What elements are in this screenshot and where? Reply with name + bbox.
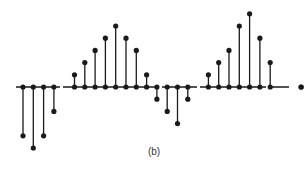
stem-tip-dot: [165, 109, 170, 114]
stem-base-dot: [237, 84, 242, 89]
stem-base-dot: [268, 84, 273, 89]
stem-18: [206, 72, 211, 89]
stem-2: [41, 84, 46, 138]
stem-tip-dot: [237, 23, 242, 28]
stem-tip-dot: [268, 60, 273, 65]
stem-base-dot: [123, 84, 128, 89]
stem-12: [144, 72, 149, 89]
stem-tip-dot: [206, 72, 211, 77]
stem-tip-dot: [144, 72, 149, 77]
stem-tip-dot: [299, 84, 304, 89]
figure-caption: (b): [0, 146, 308, 157]
stem-base-dot: [144, 84, 149, 89]
stem-20: [226, 48, 231, 90]
stem-7: [93, 48, 98, 90]
stem-8: [103, 36, 108, 90]
stem-5: [72, 72, 77, 89]
stem-tip-dot: [113, 23, 118, 28]
stem-27: [299, 84, 304, 89]
stem-tip-dot: [41, 133, 46, 138]
stem-base-dot: [134, 84, 139, 89]
stem-tip-dot: [72, 72, 77, 77]
stem-9: [113, 23, 118, 89]
stem-tip-dot: [123, 36, 128, 41]
stem-3: [51, 84, 56, 114]
stem-tip-dot: [51, 109, 56, 114]
stem-base-dot: [226, 84, 231, 89]
stem-tip-dot: [175, 121, 180, 126]
stem-base-dot: [206, 84, 211, 89]
stem-10: [123, 36, 128, 90]
stem-13: [154, 84, 159, 101]
stem-base-dot: [113, 84, 118, 89]
stem-base-dot: [103, 84, 108, 89]
stem-15: [175, 84, 180, 126]
stem-tip-dot: [93, 48, 98, 53]
stem-base-dot: [82, 84, 87, 89]
stem-tip-dot: [82, 60, 87, 65]
stem-base-dot: [216, 84, 221, 89]
stem-base-dot: [257, 84, 262, 89]
stem-tip-dot: [247, 11, 252, 16]
stem-11: [134, 48, 139, 90]
stem-base-dot: [247, 84, 252, 89]
stem-base-dot: [154, 84, 159, 89]
stem-base-dot: [20, 84, 25, 89]
stem-base-dot: [175, 84, 180, 89]
stem-21: [237, 23, 242, 89]
stem-16: [185, 84, 190, 101]
stem-19: [216, 60, 221, 90]
stem-base-dot: [72, 84, 77, 89]
stem-tip-dot: [216, 60, 221, 65]
stem-base-dot: [185, 84, 190, 89]
stem-base-dot: [31, 84, 36, 89]
stem-tip-dot: [154, 97, 159, 102]
stem-tip-dot: [20, 133, 25, 138]
stem-1: [31, 84, 36, 150]
stem-base-dot: [93, 84, 98, 89]
stem-24: [268, 60, 273, 90]
stem-23: [257, 36, 262, 90]
stem-tip-dot: [226, 48, 231, 53]
stem-6: [82, 60, 87, 90]
chart: (b): [0, 0, 308, 174]
stem-base-dot: [165, 84, 170, 89]
stem-tip-dot: [103, 36, 108, 41]
stem-0: [20, 84, 25, 138]
stem-14: [165, 84, 170, 114]
stem-tip-dot: [185, 97, 190, 102]
stem-base-dot: [51, 84, 56, 89]
stem-22: [247, 11, 252, 89]
stem-tip-dot: [134, 48, 139, 53]
stem-tip-dot: [257, 36, 262, 41]
stem-base-dot: [41, 84, 46, 89]
